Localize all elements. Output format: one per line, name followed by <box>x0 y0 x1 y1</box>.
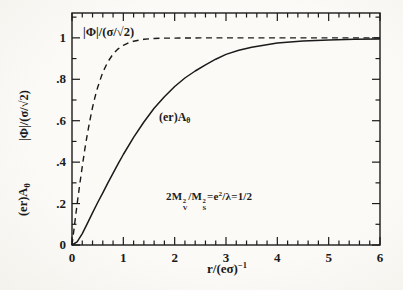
phi-curve-label: |Φ|/(σ/√2) <box>83 25 134 40</box>
figure-page: |Φ|/(σ/√2) (er)Aθ r/(eσ)−1 |Φ|/(σ/√2) (e… <box>0 0 403 290</box>
gauge-curve-label-sub: θ <box>186 116 190 125</box>
y-tick-label: 1 <box>38 30 66 46</box>
annotation-sub: V <box>183 205 188 211</box>
y-tick-label: .8 <box>38 71 66 87</box>
annotation-sub: S <box>203 205 207 211</box>
annotation-part: 2M <box>166 190 182 202</box>
dashed-curve <box>72 38 380 245</box>
annotation-part: /λ=1/2 <box>222 190 252 202</box>
x-tick-label: 2 <box>164 250 186 266</box>
x-tick-label: 1 <box>112 250 134 266</box>
y-axis-label-gauge-text: (er)A <box>16 188 30 216</box>
x-tick-label: 4 <box>266 250 288 266</box>
gauge-curve-label-text: (er)A <box>159 110 186 124</box>
annotation-part: =e <box>207 190 219 202</box>
solid-curve <box>72 39 380 245</box>
x-tick-label: 6 <box>369 250 391 266</box>
x-tick-label: 3 <box>215 250 237 266</box>
y-tick-label: .4 <box>38 154 66 170</box>
mass-s-supsub: 2S <box>203 198 207 211</box>
y-tick-label: 0 <box>38 237 66 253</box>
y-tick-label: .2 <box>38 196 66 212</box>
parameter-annotation: 2M2V/M2S=e2/λ=1/2 <box>166 190 252 211</box>
y-axis-label-gauge-sub: θ <box>23 183 32 187</box>
x-axis-label-exponent: −1 <box>238 260 247 270</box>
y-tick-label: .6 <box>38 113 66 129</box>
y-axis-label-phi-text: |Φ|/(σ/√2) <box>17 90 31 141</box>
annotation-part: /M <box>188 190 202 202</box>
y-axis-label-gauge: (er)Aθ <box>16 150 31 250</box>
x-tick-label: 5 <box>318 250 340 266</box>
gauge-curve-label: (er)Aθ <box>159 110 190 125</box>
